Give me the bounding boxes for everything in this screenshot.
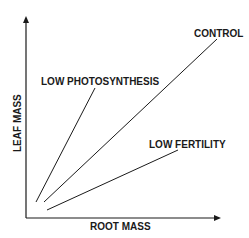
x-axis-arrow-icon — [214, 215, 221, 221]
line-low-photosynthesis — [36, 88, 95, 202]
label-low-photosynthesis: LOW PHOTOSYNTHESIS — [41, 76, 159, 87]
allometry-diagram: CONTROL LOW PHOTOSYNTHESIS LOW FERTILITY… — [0, 0, 249, 238]
label-low-fertility: LOW FERTILITY — [149, 139, 226, 150]
y-axis-arrow-icon — [23, 16, 29, 23]
label-control: CONTROL — [194, 28, 243, 39]
y-axis-label: LEAF MASS — [12, 94, 23, 152]
x-axis-label: ROOT MASS — [90, 221, 151, 232]
line-control — [44, 39, 217, 202]
